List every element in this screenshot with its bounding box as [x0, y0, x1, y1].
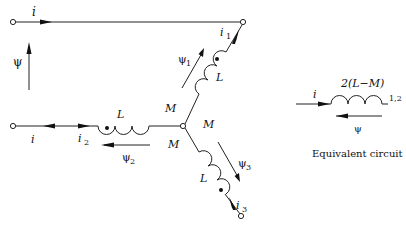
equivalent-terminal-label: 1,2: [389, 94, 402, 103]
psi2-subscript: 2: [130, 157, 135, 166]
i2-label: i: [78, 132, 82, 145]
i1-subscript: 1: [226, 32, 231, 41]
L-lower-label: L: [199, 172, 207, 185]
M-right-label: M: [202, 118, 215, 131]
dot-polarity-2: [105, 126, 109, 130]
arrow-up-right-icon: [199, 48, 205, 57]
arrow-right-icon: [40, 20, 52, 25]
upper-branch: [185, 25, 242, 124]
arrow-right-icon: [78, 124, 90, 129]
arrow-down-right-icon: [235, 173, 241, 182]
M-upper-left-label: M: [164, 102, 177, 115]
i3-label: i: [236, 199, 240, 212]
center-node: [180, 123, 185, 128]
left-flux-arrow: [27, 42, 32, 90]
i3-subscript: 3: [242, 205, 247, 214]
terminal-left: [10, 123, 15, 128]
dot-polarity-3: [219, 188, 223, 192]
i2-subscript: 2: [84, 138, 89, 147]
psi2-arrow: [101, 143, 150, 148]
M-lower-label: M: [167, 138, 180, 151]
equivalent-caption: Equivalent circuit: [312, 148, 403, 159]
psi3-arrow: [218, 142, 240, 182]
i1-label: i: [220, 26, 224, 39]
terminal-top-left: [10, 19, 15, 24]
dot-polarity-1: [215, 57, 219, 61]
top-wire: [10, 19, 245, 24]
equivalent-current-label: i: [313, 88, 317, 101]
left-current-label: i: [31, 133, 35, 146]
equivalent-circuit: [296, 96, 388, 119]
equivalent-flux-label: ψ: [354, 123, 362, 134]
arrow-left-icon: [336, 114, 348, 119]
top-current-label: i: [32, 5, 36, 19]
arrow-left-icon: [43, 124, 55, 129]
L-left-label: L: [116, 108, 124, 121]
lower-branch: [185, 128, 244, 219]
terminal-top-right: [240, 19, 245, 24]
L-upper-label: L: [215, 71, 223, 84]
equivalent-inductance-label: 2(L−M): [340, 77, 384, 90]
left-branch: [10, 123, 180, 134]
terminal-bottom: [238, 213, 243, 218]
arrow-up-icon: [27, 42, 32, 54]
psi3-subscript: 3: [246, 163, 251, 172]
psi1-subscript: 1: [186, 59, 191, 68]
y-connected-coupled-inductors-diagram: i ψ i 1 L ψ 1 M M M L i i 2: [0, 0, 406, 240]
arrow-left-icon: [101, 143, 114, 148]
left-flux-label: ψ: [13, 55, 22, 69]
arrow-up-left-icon: [229, 197, 236, 210]
arrow-right-icon: [318, 102, 330, 107]
